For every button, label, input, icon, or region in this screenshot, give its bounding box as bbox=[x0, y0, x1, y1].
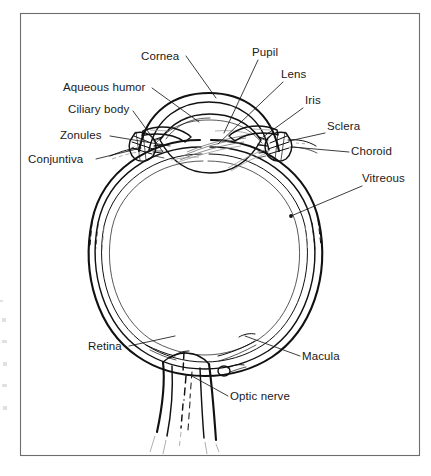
right-wall-dashes bbox=[305, 220, 321, 252]
choroid-outline bbox=[95, 147, 315, 369]
label-retina: Retina bbox=[88, 340, 122, 352]
sclera-outline bbox=[89, 140, 322, 376]
label-choroid: Choroid bbox=[351, 145, 392, 157]
leader-line-choroid bbox=[292, 147, 349, 152]
diagram-page: CorneaPupilLensIrisScleraChoroidVitreous… bbox=[0, 0, 431, 476]
label-optic-nerve: Optic nerve bbox=[230, 390, 290, 402]
eyeball-wall bbox=[89, 140, 322, 376]
leader-line-cornea bbox=[186, 56, 216, 98]
posterior-retina-folds bbox=[146, 341, 256, 361]
label-texts: CorneaPupilLensIrisScleraChoroidVitreous… bbox=[28, 46, 405, 402]
label-cornea: Cornea bbox=[141, 50, 180, 62]
leader-line-vitreous bbox=[291, 186, 362, 216]
leader-line-ciliary-body bbox=[133, 111, 163, 152]
aqueous-humor-space bbox=[156, 120, 262, 143]
label-conjuntiva: Conjuntiva bbox=[28, 153, 84, 165]
retina-outline bbox=[102, 154, 308, 362]
label-lens: Lens bbox=[281, 68, 306, 80]
optic-nerve bbox=[150, 351, 219, 454]
iris bbox=[142, 126, 278, 142]
leader-line-aqueous-humor bbox=[152, 88, 199, 122]
figure-border bbox=[21, 14, 420, 456]
label-iris: Iris bbox=[305, 94, 321, 106]
scan-edge-artifacts bbox=[0, 300, 7, 410]
label-aqueous-humor: Aqueous humor bbox=[63, 81, 146, 93]
leader-line-sclera bbox=[289, 133, 325, 141]
leader-line-optic-nerve bbox=[190, 375, 228, 396]
label-macula: Macula bbox=[302, 350, 340, 362]
eye-anatomy-diagram: CorneaPupilLensIrisScleraChoroidVitreous… bbox=[0, 0, 431, 476]
label-sclera: Sclera bbox=[327, 120, 361, 132]
vitreous-boundary bbox=[109, 161, 299, 355]
lens bbox=[160, 114, 261, 173]
label-leader-lines bbox=[96, 56, 362, 396]
label-pupil: Pupil bbox=[252, 46, 278, 58]
label-ciliary-body: Ciliary body bbox=[68, 103, 129, 115]
label-vitreous: Vitreous bbox=[362, 172, 405, 184]
label-zonules: Zonules bbox=[60, 129, 102, 141]
